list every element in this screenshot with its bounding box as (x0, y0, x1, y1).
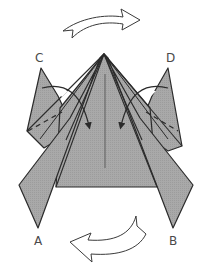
diagram-canvas (0, 0, 216, 272)
rotate-left-arrow-icon (70, 216, 146, 262)
label-d: D (166, 52, 175, 64)
label-a: A (34, 235, 42, 247)
rotate-right-arrow-icon (63, 9, 140, 38)
origami-diagram: C D A B (0, 0, 216, 272)
label-c: C (35, 52, 43, 64)
label-b: B (169, 235, 177, 247)
